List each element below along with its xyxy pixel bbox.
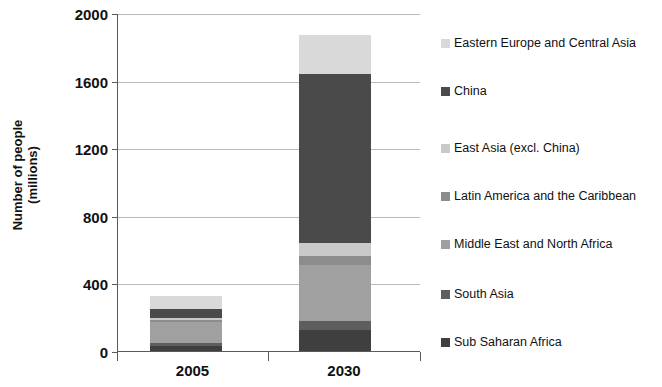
legend-item[interactable]: Eastern Europe and Central Asia bbox=[441, 36, 656, 51]
legend-item[interactable]: Middle East and North Africa bbox=[441, 237, 656, 252]
bar-segment bbox=[299, 256, 371, 265]
bar-segment bbox=[150, 296, 222, 309]
category-tick-left bbox=[117, 352, 118, 361]
gridline-1600 bbox=[118, 82, 420, 83]
legend-item[interactable]: China bbox=[441, 84, 656, 99]
legend-item[interactable]: Latin America and the Caribbean bbox=[441, 189, 656, 204]
bar-segment bbox=[150, 318, 222, 320]
legend-swatch-icon bbox=[441, 240, 450, 249]
gridline-400 bbox=[118, 284, 420, 285]
ytick-mark bbox=[112, 217, 117, 218]
ytick-label: 1200 bbox=[75, 141, 108, 158]
y-axis-title-line1: Number of people bbox=[10, 120, 25, 231]
legend-swatch-icon bbox=[441, 290, 450, 299]
ytick-mark bbox=[112, 149, 117, 150]
gridline-1200 bbox=[118, 149, 420, 150]
x-axis-label-2005: 2005 bbox=[117, 362, 268, 379]
gridline-800 bbox=[118, 217, 420, 218]
legend-item-label: Latin America and the Caribbean bbox=[454, 189, 636, 204]
y-axis-line bbox=[117, 14, 118, 352]
ytick-mark bbox=[112, 82, 117, 83]
ytick-label: 2000 bbox=[75, 6, 108, 23]
legend-item-label: Sub Saharan Africa bbox=[454, 335, 562, 350]
legend-swatch-icon bbox=[441, 39, 450, 48]
legend-swatch-icon bbox=[441, 144, 450, 153]
legend-item-label: East Asia (excl. China) bbox=[454, 141, 580, 156]
bar-segment bbox=[150, 309, 222, 318]
bar-segment bbox=[150, 320, 222, 322]
legend-item-label: China bbox=[454, 84, 487, 99]
category-tick-right bbox=[420, 352, 421, 361]
bar-segment bbox=[150, 322, 222, 343]
bar-2030 bbox=[299, 35, 371, 351]
y-axis-title: Number of people (millions) bbox=[10, 75, 40, 275]
legend-swatch-icon bbox=[441, 87, 450, 96]
y-axis-title-line2: (millions) bbox=[25, 75, 40, 275]
bar-segment bbox=[299, 265, 371, 321]
category-tick-mid bbox=[268, 352, 269, 361]
legend-swatch-icon bbox=[441, 338, 450, 347]
stacked-bar-chart: Number of people (millions) 2000 1600 12… bbox=[0, 0, 662, 387]
legend-item-label: South Asia bbox=[454, 287, 514, 302]
bar-segment bbox=[299, 321, 371, 330]
bar-2005 bbox=[150, 296, 222, 351]
legend-swatch-icon bbox=[441, 192, 450, 201]
x-axis-label-2030: 2030 bbox=[268, 362, 420, 379]
legend-item[interactable]: East Asia (excl. China) bbox=[441, 141, 656, 156]
legend-item[interactable]: South Asia bbox=[441, 287, 656, 302]
ytick-mark bbox=[112, 284, 117, 285]
ytick-label: 800 bbox=[83, 208, 108, 225]
gridline-2000 bbox=[118, 14, 420, 15]
legend-item-label: Middle East and North Africa bbox=[454, 237, 612, 252]
ytick-label: 0 bbox=[100, 344, 108, 361]
bar-segment bbox=[150, 346, 222, 351]
legend-item[interactable]: Sub Saharan Africa bbox=[441, 335, 656, 350]
legend-item-label: Eastern Europe and Central Asia bbox=[454, 36, 636, 51]
ytick-label: 400 bbox=[83, 276, 108, 293]
bar-segment bbox=[150, 343, 222, 346]
plot-area: 2000 1600 1200 800 400 0 bbox=[117, 14, 420, 352]
ytick-label: 1600 bbox=[75, 73, 108, 90]
bar-segment bbox=[299, 74, 371, 243]
bar-segment bbox=[299, 243, 371, 256]
bar-segment bbox=[299, 35, 371, 74]
ytick-mark bbox=[112, 14, 117, 15]
bar-segment bbox=[299, 330, 371, 351]
